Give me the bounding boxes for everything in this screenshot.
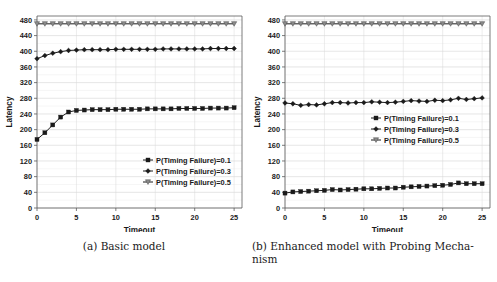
- data-point-marker: [169, 107, 173, 111]
- data-point-marker: [298, 103, 303, 108]
- data-point-marker: [409, 98, 414, 103]
- data-point-marker: [35, 137, 39, 141]
- data-point-marker: [192, 47, 197, 52]
- data-point-marker: [480, 95, 485, 100]
- series-2: [35, 46, 237, 61]
- data-point-marker: [472, 96, 477, 101]
- y-tick-label: 80: [272, 172, 280, 181]
- data-point-marker: [378, 186, 382, 190]
- data-point-marker: [361, 100, 366, 105]
- data-point-marker: [67, 110, 71, 114]
- data-point-marker: [432, 98, 437, 103]
- chart-b-plot: 0408012016020024028032036040044048005101…: [248, 0, 496, 232]
- x-tick-label: 15: [399, 213, 407, 222]
- legend-label: P(Timing Failure)=0.3: [384, 125, 459, 134]
- caption-b: (b) Enhanced model with Probing Mecha- n…: [248, 240, 496, 265]
- data-point-marker: [425, 184, 429, 188]
- data-point-marker: [82, 108, 86, 112]
- data-point-marker: [98, 108, 102, 112]
- data-point-marker: [322, 188, 326, 192]
- y-tick-label: 360: [20, 63, 32, 72]
- y-tick-label: 40: [24, 188, 32, 197]
- x-axis-title: Timeout: [124, 226, 156, 232]
- data-point-marker: [417, 99, 422, 104]
- x-tick-label: 20: [439, 213, 447, 222]
- data-point-marker: [51, 123, 55, 127]
- y-tick-label: 40: [272, 188, 280, 197]
- data-point-marker: [43, 131, 47, 135]
- data-point-marker: [232, 106, 236, 110]
- y-tick-label: 160: [268, 141, 280, 150]
- series-3: [34, 22, 236, 27]
- chart-a-svg: 0408012016020024028032036040044048005101…: [0, 0, 248, 232]
- data-point-marker: [425, 99, 430, 104]
- chart-b-svg: 0408012016020024028032036040044048005101…: [248, 0, 496, 232]
- x-tick-label: 25: [478, 213, 486, 222]
- data-point-marker: [409, 185, 413, 189]
- x-tick-label: 25: [230, 213, 238, 222]
- data-point-marker: [441, 183, 445, 187]
- y-tick-label: 320: [268, 78, 280, 87]
- x-tick-label: 0: [283, 213, 287, 222]
- data-point-marker: [129, 47, 134, 52]
- y-tick-label: 480: [20, 16, 32, 25]
- data-point-marker: [35, 56, 40, 61]
- legend-label: P(Timing Failure)=0.5: [156, 178, 231, 187]
- data-point-marker: [185, 106, 189, 110]
- data-point-marker: [464, 97, 469, 102]
- y-tick-label: 400: [20, 47, 32, 56]
- panel-b: 0408012016020024028032036040044048005101…: [248, 0, 496, 282]
- data-point-marker: [145, 47, 150, 52]
- data-point-marker: [122, 107, 126, 111]
- x-tick-label: 20: [191, 213, 199, 222]
- data-point-marker: [291, 190, 295, 194]
- y-tick-label: 160: [20, 141, 32, 150]
- y-tick-label: 200: [268, 125, 280, 134]
- data-point-marker: [417, 184, 421, 188]
- y-tick-label: 120: [20, 157, 32, 166]
- y-tick-label: 440: [268, 31, 280, 40]
- y-tick-label: 0: [276, 204, 280, 213]
- legend-label: P(Timing Failure)=0.5: [384, 136, 459, 145]
- data-point-marker: [322, 101, 327, 106]
- data-point-marker: [130, 107, 134, 111]
- data-point-marker: [59, 115, 63, 119]
- x-tick-label: 10: [112, 213, 120, 222]
- data-point-marker: [114, 107, 118, 111]
- data-point-marker: [200, 47, 205, 52]
- data-point-marker: [369, 99, 374, 104]
- series-line: [285, 98, 482, 105]
- data-point-marker: [74, 48, 79, 53]
- legend-label: P(Timing Failure)=0.1: [384, 114, 459, 123]
- data-point-marker: [161, 47, 166, 52]
- data-point-marker: [184, 47, 189, 52]
- y-tick-label: 120: [268, 157, 280, 166]
- legend: P(Timing Failure)=0.1P(Timing Failure)=0…: [140, 150, 248, 187]
- data-point-marker: [66, 48, 71, 53]
- data-point-marker: [146, 158, 150, 162]
- data-point-marker: [283, 191, 287, 195]
- data-point-marker: [208, 106, 212, 110]
- data-point-marker: [456, 181, 460, 185]
- data-point-marker: [346, 101, 351, 106]
- data-point-marker: [106, 108, 110, 112]
- x-tick-label: 5: [322, 213, 326, 222]
- data-point-marker: [386, 186, 390, 190]
- data-point-marker: [315, 189, 319, 193]
- y-tick-label: 480: [268, 16, 280, 25]
- data-point-marker: [121, 47, 126, 52]
- data-point-marker: [161, 107, 165, 111]
- data-point-marker: [401, 185, 405, 189]
- data-point-marker: [374, 116, 378, 120]
- data-point-marker: [42, 53, 47, 58]
- data-point-marker: [440, 98, 445, 103]
- y-tick-label: 240: [268, 110, 280, 119]
- data-point-marker: [307, 189, 311, 193]
- data-point-marker: [58, 49, 63, 54]
- chart-a-plot: 0408012016020024028032036040044048005101…: [0, 0, 248, 232]
- data-point-marker: [330, 100, 335, 105]
- data-point-marker: [74, 108, 78, 112]
- legend-label: P(Timing Failure)=0.3: [156, 167, 231, 176]
- data-point-marker: [370, 187, 374, 191]
- data-point-marker: [177, 106, 181, 110]
